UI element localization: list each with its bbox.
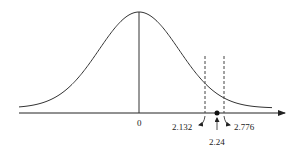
critical-label-2132: 2.132 [172, 122, 192, 132]
critical-label-2776: 2.776 [234, 122, 255, 132]
test-statistic-label: 2.24 [209, 137, 225, 147]
t-distribution-chart: 0 2.132 2.776 2.24 [0, 0, 299, 156]
arrow-2132 [199, 116, 205, 125]
density-curve [19, 12, 272, 108]
test-statistic-dot [215, 111, 220, 116]
arrow-2776 [224, 116, 230, 125]
center-label: 0 [137, 118, 142, 128]
